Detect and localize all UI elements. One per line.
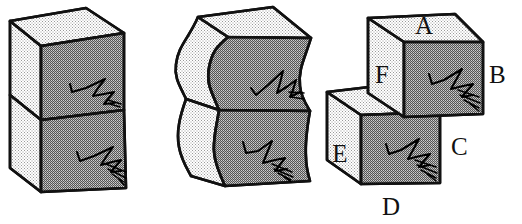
middle-figure-upper-front-face — [208, 37, 311, 111]
face-label-B: B — [489, 61, 506, 88]
face-label-E: E — [332, 140, 347, 167]
face-label-F: F — [375, 61, 389, 88]
face-label-D: D — [382, 193, 400, 220]
panel-right-offset-blocks: A B F E C D — [327, 12, 506, 220]
panel-middle-sheared-block — [176, 7, 311, 186]
left-figure-upper-front-face — [41, 33, 124, 120]
face-label-C: C — [451, 133, 468, 160]
left-figure-lower-front-face — [41, 110, 126, 192]
face-label-A: A — [415, 12, 433, 39]
block-diagram-svg: A B F E C D — [0, 0, 522, 224]
panel-left-stacked-block — [10, 8, 126, 192]
figure-container: A B F E C D — [0, 0, 522, 224]
